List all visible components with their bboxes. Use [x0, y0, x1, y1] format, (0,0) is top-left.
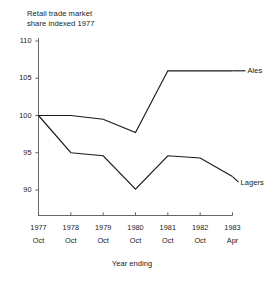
x-tick-year: 1977 — [24, 223, 54, 232]
x-tick-year: 1982 — [185, 223, 215, 232]
chart-series-lines — [39, 71, 233, 189]
x-tick-month: Apr — [218, 236, 248, 245]
chart-tick-marks — [35, 41, 232, 216]
x-axis-tick-label: 1979Oct — [88, 223, 118, 246]
x-tick-month: Oct — [121, 236, 151, 245]
x-axis-tick-label: 1977Oct — [24, 223, 54, 246]
x-tick-month: Oct — [153, 236, 183, 245]
y-axis-tick-label: 90 — [10, 185, 32, 194]
x-tick-month: Oct — [56, 236, 86, 245]
series-label-lagers: Lagers — [241, 178, 264, 187]
x-tick-year: 1979 — [88, 223, 118, 232]
x-axis-title: Year ending — [62, 259, 202, 268]
x-tick-month: Oct — [185, 236, 215, 245]
chart-container: Retail trade market share indexed 1977 1… — [0, 0, 267, 281]
series-label-ales: Ales — [248, 66, 263, 75]
x-axis-tick-label: 1983Apr — [218, 223, 248, 246]
x-axis-tick-label: 1981Oct — [153, 223, 183, 246]
x-axis-tick-label: 1982Oct — [185, 223, 215, 246]
y-axis-tick-label: 100 — [10, 111, 32, 120]
chart-label-leaders — [233, 71, 246, 182]
x-axis-tick-label: 1980Oct — [121, 223, 151, 246]
x-tick-month: Oct — [24, 236, 54, 245]
x-tick-year: 1980 — [121, 223, 151, 232]
x-tick-year: 1983 — [218, 223, 248, 232]
x-tick-month: Oct — [88, 236, 118, 245]
x-axis-tick-label: 1978Oct — [56, 223, 86, 246]
x-tick-year: 1981 — [153, 223, 183, 232]
x-tick-year: 1978 — [56, 223, 86, 232]
y-axis-tick-label: 110 — [10, 36, 32, 45]
y-axis-tick-label: 105 — [10, 73, 32, 82]
y-axis-tick-label: 95 — [10, 148, 32, 157]
